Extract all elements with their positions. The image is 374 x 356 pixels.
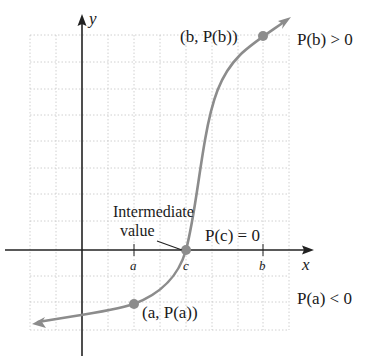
tick-label-a: a — [130, 258, 137, 273]
intermediate-label-line2: value — [120, 222, 155, 239]
x-axis-label: x — [301, 255, 310, 274]
point-c — [181, 245, 191, 255]
polynomial-curve — [38, 22, 284, 322]
curve-left-arrow-icon — [32, 317, 46, 328]
pc-zero-label: P(c) = 0 — [205, 226, 260, 245]
intermediate-value-diagram: y x a c b (b, P(b)) (a, P(a)) Intermedia… — [0, 0, 374, 356]
intermediate-leader-line — [157, 241, 182, 250]
y-axis-label: y — [87, 9, 97, 28]
tick-label-c: c — [183, 258, 189, 273]
curve-right-arrow-icon — [278, 17, 291, 29]
intermediate-label-line1: Intermediate — [113, 203, 194, 220]
point-b-label: (b, P(b)) — [180, 27, 238, 46]
pa-negative-label: P(a) < 0 — [297, 289, 352, 308]
grid — [30, 35, 289, 330]
point-a-label: (a, P(a)) — [142, 303, 198, 322]
point-b — [258, 31, 268, 41]
pb-positive-label: P(b) > 0 — [297, 30, 353, 49]
point-a — [129, 299, 139, 309]
tick-label-b: b — [259, 258, 266, 273]
